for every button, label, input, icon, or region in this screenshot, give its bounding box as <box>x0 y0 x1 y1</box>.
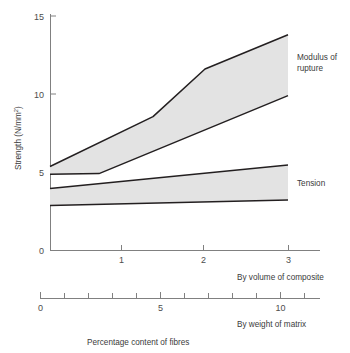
x-axis-volume-ticks <box>122 245 289 251</box>
axis-group-caption: Percentage content of fibres <box>87 338 189 347</box>
strength-vs-fibre-content-chart: 15 10 5 0 Strength (N/mm2) Modulus of ru… <box>0 0 350 353</box>
y-tick-label-0: 0 <box>39 246 44 256</box>
y-tick-label-15: 15 <box>34 12 44 22</box>
x-tick-label-volume-1: 1 <box>119 255 124 265</box>
y-tick-label-5: 5 <box>39 168 44 178</box>
y-axis-title: Strength (N/mm2) <box>13 106 23 170</box>
series-label-modulus-line1: Modulus of <box>297 53 338 62</box>
y-axis-title-tail: ) <box>14 106 23 109</box>
modulus-of-rupture-band-fill <box>50 35 288 175</box>
x-axis-volume-caption: By volume of composite <box>237 273 324 282</box>
y-axis-ticks <box>51 16 57 172</box>
x-tick-label-volume-2: 2 <box>201 255 206 265</box>
series-label-tension: Tension <box>297 179 326 188</box>
chart-figure: 15 10 5 0 Strength (N/mm2) Modulus of ru… <box>0 0 350 353</box>
y-axis-title-main: Strength (N/mm <box>14 112 23 170</box>
x-axis-weight-ticks <box>41 292 305 299</box>
x-tick-label-volume-3: 3 <box>286 255 291 265</box>
x-tick-label-weight-5: 5 <box>158 303 163 313</box>
x-axis-weight-caption: By weight of matrix <box>237 320 306 329</box>
y-tick-label-10: 10 <box>34 90 44 100</box>
x-tick-label-weight-0: 0 <box>38 303 43 313</box>
series-label-modulus-line2: rupture <box>297 64 323 73</box>
svg-text:Strength (N/mm2): Strength (N/mm2) <box>13 106 23 170</box>
x-tick-label-weight-10: 10 <box>275 303 285 313</box>
